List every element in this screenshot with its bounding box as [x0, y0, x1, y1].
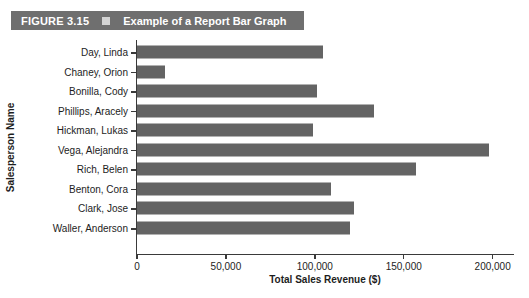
y-axis-tick	[131, 72, 136, 74]
y-axis-category-label: Bonilla, Cody	[69, 86, 128, 97]
y-axis-category-label: Rich, Belen	[77, 164, 128, 175]
y-axis-tick	[131, 52, 136, 54]
y-axis-category-label: Clark, Jose	[78, 203, 128, 214]
figure-caption-bar: FIGURE 3.15 Example of a Report Bar Grap…	[11, 11, 304, 30]
bar	[137, 143, 489, 156]
y-axis-category-label: Chaney, Orion	[64, 66, 128, 77]
y-axis-category-label: Hickman, Lukas	[57, 125, 128, 136]
bar	[137, 182, 331, 195]
y-axis-title: Salesperson Name	[0, 40, 22, 255]
y-axis-category-label: Benton, Cora	[69, 183, 128, 194]
x-axis-tick	[403, 254, 405, 259]
bar	[137, 46, 323, 59]
x-axis-tick	[136, 254, 138, 259]
x-axis-tick-label: 100,000	[297, 261, 333, 272]
x-axis-tick-label: 200,000	[475, 261, 511, 272]
figure-title: Example of a Report Bar Graph	[123, 15, 286, 27]
x-axis-tick	[314, 254, 316, 259]
y-axis-tick	[131, 111, 136, 113]
x-axis-tick-label: 0	[134, 261, 140, 272]
y-axis-tick	[131, 169, 136, 171]
y-axis-category-labels: Day, LindaChaney, OrionBonilla, CodyPhil…	[22, 40, 132, 255]
bar-series	[137, 40, 514, 255]
x-axis-tick-label: 150,000	[386, 261, 422, 272]
y-axis-title-text: Salesperson Name	[6, 103, 17, 193]
bar	[137, 124, 313, 137]
y-axis-tick	[131, 130, 136, 132]
bar	[137, 65, 165, 78]
y-axis-category-label: Vega, Alejandra	[58, 144, 128, 155]
y-axis-category-label: Day, Linda	[81, 47, 128, 58]
y-axis-tick	[131, 150, 136, 152]
x-axis-tick	[492, 254, 494, 259]
y-axis-category-label: Phillips, Aracely	[58, 105, 128, 116]
figure-number-label: FIGURE 3.15	[21, 15, 89, 27]
x-axis-tick-label: 50,000	[211, 261, 242, 272]
bar	[137, 222, 350, 235]
y-axis-tick	[131, 189, 136, 191]
bar	[137, 202, 354, 215]
y-axis-tick	[131, 91, 136, 93]
x-axis-title: Total Sales Revenue ($)	[136, 274, 514, 285]
y-axis-category-label: Waller, Anderson	[53, 223, 128, 234]
x-axis-tick	[225, 254, 227, 259]
bar	[137, 85, 317, 98]
figure-screenshot: FIGURE 3.15 Example of a Report Bar Grap…	[0, 0, 529, 298]
y-axis-tick	[131, 208, 136, 210]
bar	[137, 104, 374, 117]
bar	[137, 163, 416, 176]
square-marker-icon	[102, 17, 110, 25]
y-axis-tick	[131, 228, 136, 230]
